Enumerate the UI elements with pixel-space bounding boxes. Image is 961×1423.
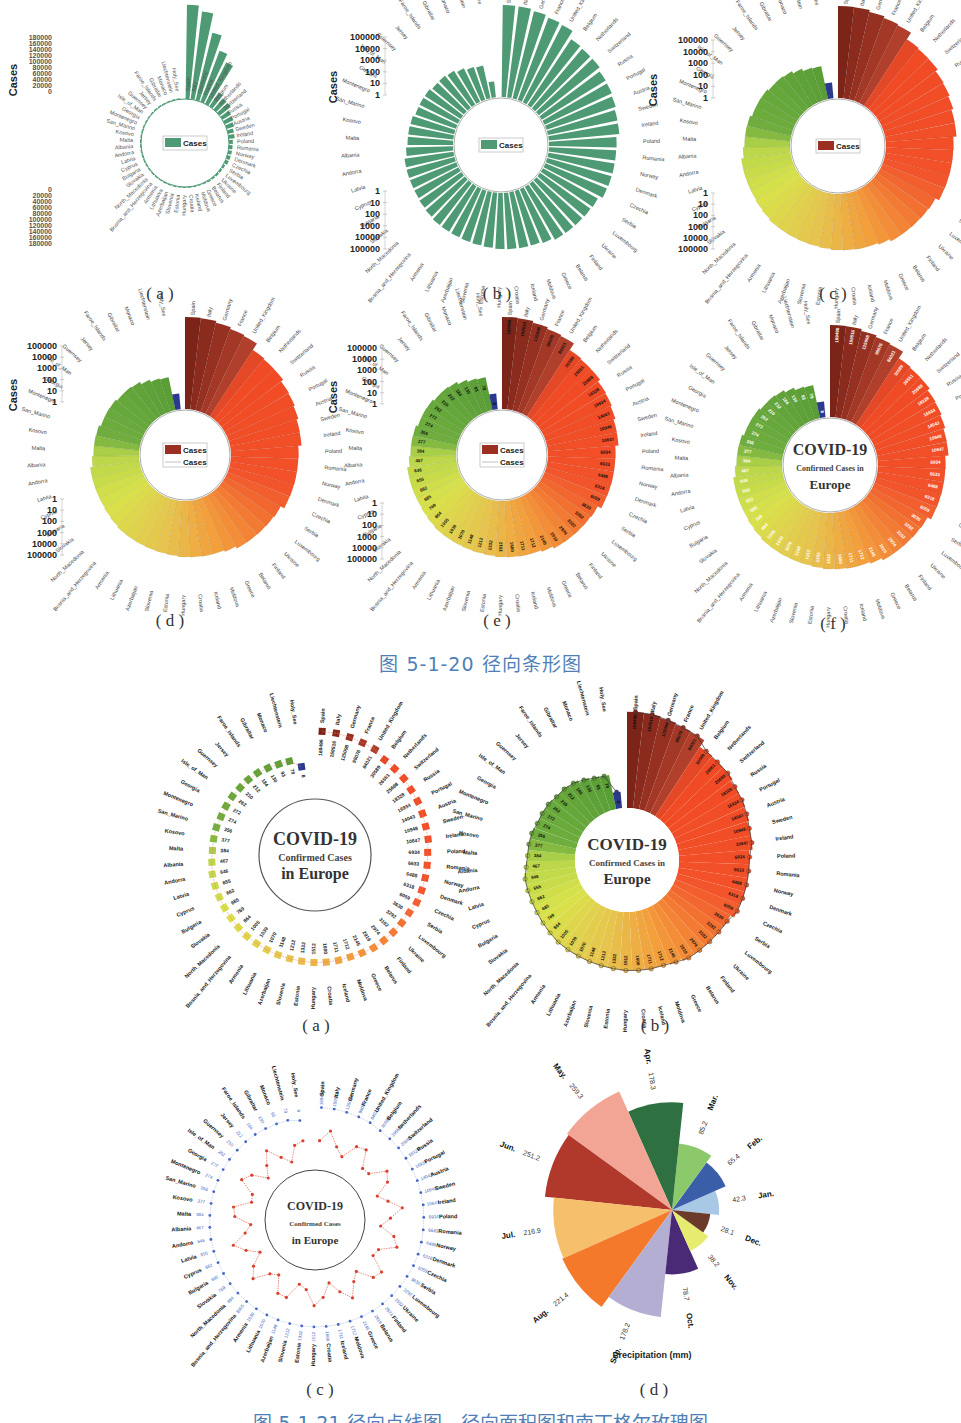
svg-text:Malta: Malta xyxy=(120,137,135,144)
svg-text:10000: 10000 xyxy=(352,543,377,553)
svg-text:100: 100 xyxy=(365,209,380,219)
bar xyxy=(140,139,141,143)
svg-text:1332: 1332 xyxy=(299,942,306,954)
svg-text:18328: 18328 xyxy=(391,791,406,804)
center-title: COVID-19Confirmed Casesin Europe xyxy=(287,1199,343,1246)
radial-area-chart: 1694961595161250989807684021305892655125… xyxy=(470,680,790,1020)
svg-text:Spain: Spain xyxy=(632,694,639,710)
svg-text:384: 384 xyxy=(196,1212,204,1217)
svg-text:Greece: Greece xyxy=(889,591,902,610)
svg-text:Albania: Albania xyxy=(163,861,184,868)
svg-text:Gibraltar: Gibraltar xyxy=(750,320,765,342)
svg-text:Europe: Europe xyxy=(810,477,851,492)
svg-text:Confirmed Cases: Confirmed Cases xyxy=(289,1220,341,1228)
svg-text:100000: 100000 xyxy=(27,550,57,560)
svg-text:France: France xyxy=(553,0,565,15)
svg-text:130: 130 xyxy=(257,1115,265,1124)
svg-text:8: 8 xyxy=(300,774,306,778)
svg-text:6318: 6318 xyxy=(403,881,416,890)
svg-text:169496: 169496 xyxy=(506,319,512,335)
svg-text:Croatia: Croatia xyxy=(188,194,196,213)
svg-text:Czechia: Czechia xyxy=(434,907,456,922)
svg-text:1711: 1711 xyxy=(332,941,340,953)
svg-text:Isle_of_Man: Isle_of_Man xyxy=(478,752,508,775)
svg-text:Luxembourg: Luxembourg xyxy=(744,950,774,975)
svg-text:84021: 84021 xyxy=(361,754,373,769)
sublabel-1f: ( f ) xyxy=(803,614,863,634)
svg-text:Belgium: Belgium xyxy=(911,332,928,352)
svg-text:Bulgaria: Bulgaria xyxy=(180,918,203,935)
svg-text:8: 8 xyxy=(296,1109,301,1113)
svg-text:210: 210 xyxy=(226,1139,235,1148)
svg-text:1711: 1711 xyxy=(337,1329,344,1340)
svg-text:6934: 6934 xyxy=(735,854,746,859)
svg-text:120000: 120000 xyxy=(29,52,52,59)
svg-text:1332: 1332 xyxy=(297,1330,303,1341)
svg-text:Ukraine: Ukraine xyxy=(937,243,955,261)
svg-text:Jun.: Jun. xyxy=(499,1139,518,1153)
svg-text:212: 212 xyxy=(252,783,262,793)
svg-text:Estonia: Estonia xyxy=(162,593,170,613)
svg-text:Russia: Russia xyxy=(953,53,961,68)
radial-bar-chart-labels: 1694961595161250989807684021305892655125… xyxy=(320,315,640,625)
svg-text:Andorra: Andorra xyxy=(171,1239,194,1249)
svg-text:Slovakia: Slovakia xyxy=(706,228,727,246)
svg-text:Jersey: Jersey xyxy=(731,25,746,41)
svg-text:San_Marino: San_Marino xyxy=(335,95,365,109)
svg-text:Croatia: Croatia xyxy=(325,1343,333,1363)
svg-text:Poland: Poland xyxy=(777,852,795,858)
svg-text:100000: 100000 xyxy=(678,244,708,254)
svg-text:Andorra: Andorra xyxy=(671,488,692,498)
svg-text:COVID-19: COVID-19 xyxy=(273,829,357,849)
svg-text:1005: 1005 xyxy=(249,919,261,932)
svg-text:100: 100 xyxy=(42,375,57,385)
svg-text:Finland: Finland xyxy=(391,1314,408,1333)
svg-text:1: 1 xyxy=(52,494,57,504)
svg-text:864: 864 xyxy=(242,913,252,923)
svg-text:160000: 160000 xyxy=(29,40,52,47)
svg-text:Cyprus: Cyprus xyxy=(175,905,195,918)
svg-text:Belgium: Belgium xyxy=(713,719,731,740)
svg-text:655: 655 xyxy=(222,877,232,885)
y-axis: 110100100010000100000 xyxy=(350,186,387,254)
svg-text:Greece: Greece xyxy=(367,1330,380,1349)
data-point xyxy=(298,957,306,965)
fig1-panel-d: SpainItalyGermanyFranceUnited_KingdomBel… xyxy=(0,315,320,625)
svg-text:Holy_See: Holy_See xyxy=(290,1072,300,1097)
svg-text:10000: 10000 xyxy=(352,354,377,364)
svg-text:France: France xyxy=(682,704,695,723)
svg-text:Liechtenstein: Liechtenstein xyxy=(790,0,804,10)
svg-text:Jersey: Jersey xyxy=(514,732,531,750)
svg-text:251.2: 251.2 xyxy=(522,1149,541,1162)
radial-bar-chart-linear: SpainItalyGermanyFranceUnited_KingdomBel… xyxy=(0,0,320,310)
y-axis: 110100100010000100000 xyxy=(347,498,384,564)
svg-text:Serbia: Serbia xyxy=(950,536,961,550)
svg-text:Moldova: Moldova xyxy=(229,586,242,608)
svg-text:Norway: Norway xyxy=(773,887,795,897)
svg-text:Feb.: Feb. xyxy=(746,1134,764,1151)
svg-text:Austria: Austria xyxy=(429,1165,450,1178)
bar xyxy=(227,128,234,133)
data-point xyxy=(379,936,389,946)
svg-text:Russia: Russia xyxy=(422,767,441,783)
svg-text:1: 1 xyxy=(52,397,57,407)
svg-text:Malta: Malta xyxy=(169,845,184,852)
svg-text:France: France xyxy=(882,317,894,335)
svg-text:Belgium: Belgium xyxy=(919,13,936,33)
svg-text:Germany: Germany xyxy=(875,0,887,10)
svg-text:Malta: Malta xyxy=(683,136,698,143)
svg-text:93: 93 xyxy=(279,770,287,778)
svg-text:Slovakia: Slovakia xyxy=(196,1291,218,1310)
svg-text:Armenia: Armenia xyxy=(232,1321,250,1343)
svg-text:Lithuania: Lithuania xyxy=(545,991,562,1016)
bar xyxy=(183,187,187,188)
svg-text:Belarus: Belarus xyxy=(575,263,590,282)
svg-text:San_Marino: San_Marino xyxy=(21,406,51,420)
svg-text:40000: 40000 xyxy=(33,76,53,83)
svg-text:Italy: Italy xyxy=(205,306,213,317)
svg-text:Estonia: Estonia xyxy=(293,985,302,1006)
svg-text:Jersey: Jersey xyxy=(397,336,412,352)
svg-text:COVID-19: COVID-19 xyxy=(793,441,868,458)
sublabel-1e: ( e ) xyxy=(467,611,527,631)
svg-text:Moldova: Moldova xyxy=(545,278,558,300)
